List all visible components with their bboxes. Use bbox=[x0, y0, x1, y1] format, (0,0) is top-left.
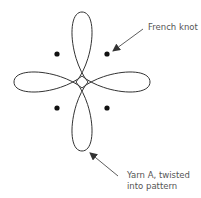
loop-right bbox=[82, 72, 150, 92]
french-knot-dot bbox=[104, 105, 109, 110]
loop-bottom bbox=[72, 82, 92, 151]
loop-top bbox=[72, 12, 92, 82]
french-knot-dot bbox=[104, 51, 109, 56]
french-knot-dot bbox=[54, 51, 59, 56]
yarn-arrow bbox=[90, 153, 118, 176]
french-knot-label: French knot bbox=[148, 22, 198, 32]
loop-left bbox=[14, 72, 82, 92]
yarn-label-line2: into pattern bbox=[127, 181, 177, 191]
yarn-label-line1: Yarn A, twisted bbox=[127, 170, 190, 180]
french-knots bbox=[54, 51, 109, 110]
yarn-loops bbox=[14, 12, 150, 151]
french-knot-arrow bbox=[113, 29, 143, 51]
french-knot-dot bbox=[54, 105, 59, 110]
